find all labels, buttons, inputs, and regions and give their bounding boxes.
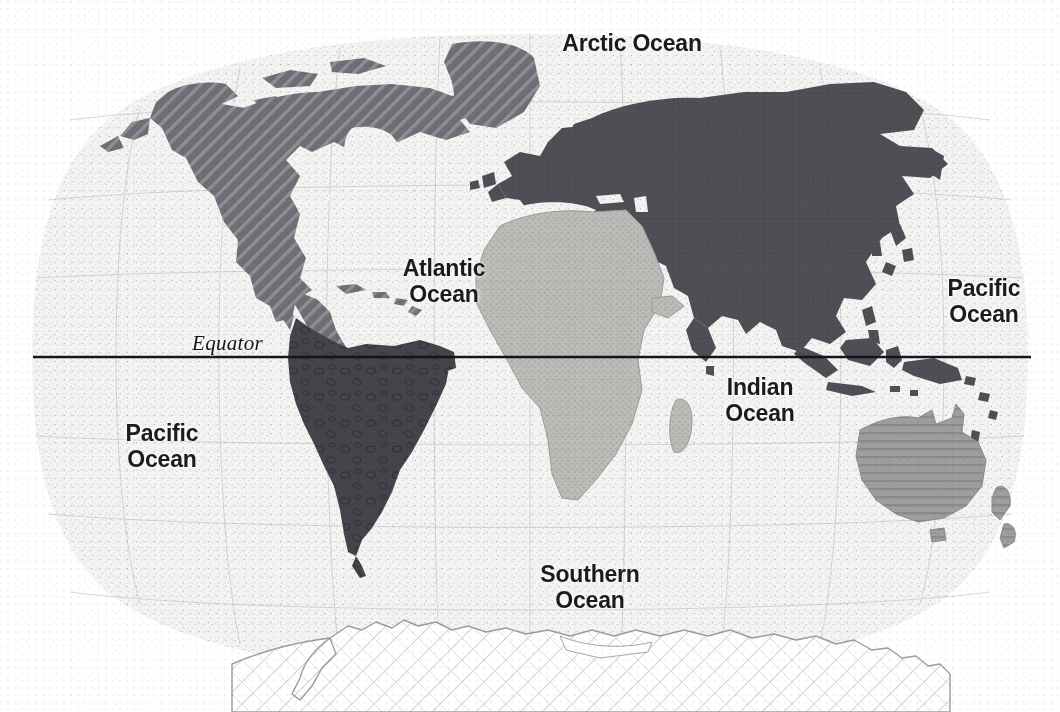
map-canvas [0,0,1060,712]
world-map: Arctic Ocean Atlantic Ocean Pacific Ocea… [0,0,1060,712]
